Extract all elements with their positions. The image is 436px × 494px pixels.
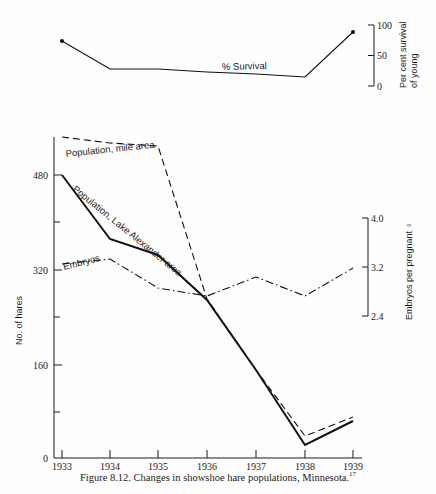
left-axis-title: No. of hares xyxy=(14,295,24,345)
population-mile-area-curve xyxy=(62,137,353,436)
right-ticklabel-3-2: 3.2 xyxy=(371,262,384,273)
survival-curve xyxy=(62,32,353,77)
caption-text: Changes in showshoe hare populations, Mi… xyxy=(134,472,350,483)
left-ticklabel-0: 0 xyxy=(43,453,48,464)
top-chart-ticklabel-100: 100 xyxy=(377,20,392,31)
label-population-mile-area: Population, mile area xyxy=(65,139,156,159)
left-ticklabel-320: 320 xyxy=(33,265,48,276)
top-chart-ticklabel-50: 50 xyxy=(377,50,387,61)
top-chart: 100 50 0 Per cent survival of young % Su… xyxy=(60,20,419,92)
survival-marker-1933 xyxy=(60,39,64,43)
right-ticklabel-2-4: 2.4 xyxy=(371,311,384,322)
embryos-curve xyxy=(62,259,353,296)
caption-footnote: 17 xyxy=(349,470,356,478)
label-embryos: Embryos xyxy=(62,252,101,272)
survival-curve-label: % Survival xyxy=(222,60,267,72)
right-ticklabel-4-0: 4.0 xyxy=(371,213,384,224)
figure-snowshoe-hare-populations: 100 50 0 Per cent survival of young % Su… xyxy=(0,0,436,494)
top-chart-axis-title-line2: of young xyxy=(409,53,419,88)
left-ticklabel-160: 160 xyxy=(33,360,48,371)
figure-caption: Figure 8.12. Changes in showshoe hare po… xyxy=(0,470,436,483)
right-axis-title: Embryos per pregnant ♀ xyxy=(404,222,414,320)
main-chart: 480 320 160 0 No. of hares 1933 1934 193… xyxy=(14,137,414,472)
top-chart-axis-title-line1: Per cent survival xyxy=(398,21,408,88)
caption-prefix: Figure 8.12. xyxy=(80,472,131,483)
survival-marker-1939 xyxy=(351,30,355,34)
top-chart-ticklabel-0: 0 xyxy=(377,81,382,92)
left-ticklabel-480: 480 xyxy=(33,170,48,181)
